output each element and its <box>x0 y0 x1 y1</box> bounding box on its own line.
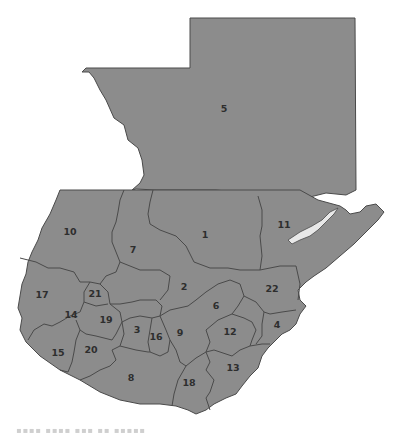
label-dept-1: 1 <box>202 229 209 240</box>
label-dept-5: 5 <box>221 103 228 114</box>
label-dept-19: 19 <box>99 314 112 325</box>
country-south-body <box>18 190 384 414</box>
label-dept-11: 11 <box>277 219 290 230</box>
label-dept-17: 17 <box>35 289 48 300</box>
label-dept-12: 12 <box>223 326 236 337</box>
label-dept-10: 10 <box>63 226 77 237</box>
label-dept-15: 15 <box>51 347 64 358</box>
label-dept-16: 16 <box>149 331 163 342</box>
label-dept-6: 6 <box>213 300 220 311</box>
label-dept-22: 22 <box>265 283 278 294</box>
label-dept-8: 8 <box>128 372 135 383</box>
label-dept-18: 18 <box>182 377 196 388</box>
department-5-peten[interactable] <box>82 18 356 198</box>
guatemala-map: 5 11 10 7 1 2 22 17 21 14 19 6 3 16 9 12… <box>0 0 400 437</box>
label-dept-21: 21 <box>88 288 101 299</box>
label-dept-2: 2 <box>181 281 188 292</box>
label-dept-3: 3 <box>134 324 141 335</box>
label-dept-4: 4 <box>274 319 281 330</box>
label-dept-13: 13 <box>226 362 239 373</box>
map-caption: ▪▪▪▪ ▪▪▪▪ ▪▪▪ ▪▪ ▪▪▪▪▪ <box>16 426 146 435</box>
label-dept-20: 20 <box>84 344 98 355</box>
label-dept-14: 14 <box>64 309 78 320</box>
label-dept-9: 9 <box>177 327 184 338</box>
label-dept-7: 7 <box>130 244 137 255</box>
